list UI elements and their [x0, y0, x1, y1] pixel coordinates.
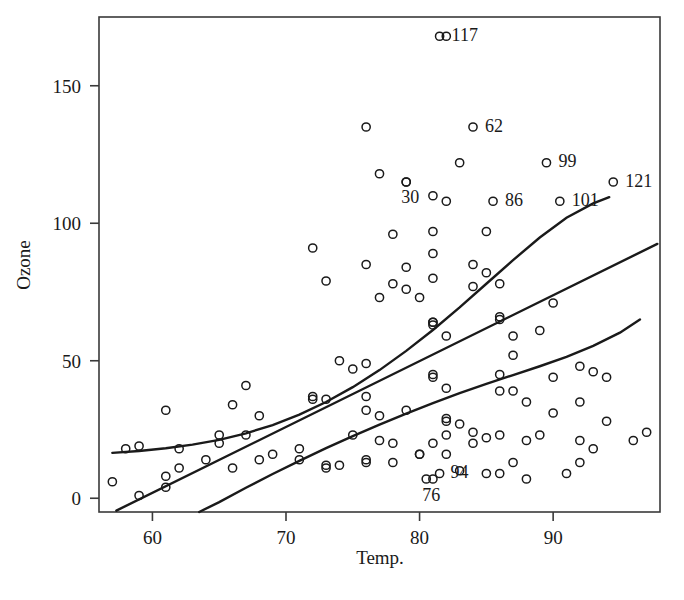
data-point [362, 260, 370, 268]
data-point [469, 428, 477, 436]
point-label: 76 [422, 485, 440, 505]
data-point [415, 450, 423, 458]
data-point [215, 431, 223, 439]
y-axis-ticks: 050100150 [53, 76, 100, 510]
data-point [375, 412, 383, 420]
data-point [442, 450, 450, 458]
data-point [202, 456, 210, 464]
labeled-data-point [489, 197, 497, 205]
data-point [602, 417, 610, 425]
data-point [522, 436, 530, 444]
data-point [576, 436, 584, 444]
data-point [496, 387, 504, 395]
data-point [549, 409, 557, 417]
data-point [429, 439, 437, 447]
data-point [402, 263, 410, 271]
data-point [522, 398, 530, 406]
ozone-temp-scatter-figure: 60708090 050100150 117629912130861019476… [0, 0, 684, 600]
data-point [522, 475, 530, 483]
point-label: 30 [401, 187, 419, 207]
point-label: 62 [485, 116, 503, 136]
data-point [629, 436, 637, 444]
data-point [362, 406, 370, 414]
data-point [442, 332, 450, 340]
y-tick-label: 50 [62, 351, 81, 372]
data-point [469, 260, 477, 268]
data-point [402, 285, 410, 293]
data-point [562, 469, 570, 477]
data-point [135, 442, 143, 450]
x-tick-label: 70 [277, 527, 296, 548]
data-point [175, 464, 183, 472]
data-point [482, 269, 490, 277]
data-point [242, 381, 250, 389]
plot-frame [99, 17, 660, 512]
y-tick-label: 150 [53, 76, 82, 97]
data-point [255, 412, 263, 420]
data-point [442, 197, 450, 205]
data-point [429, 192, 437, 200]
point-label: 94 [451, 462, 469, 482]
data-point [375, 293, 383, 301]
data-point [576, 398, 584, 406]
y-axis-title: Ozone [13, 240, 34, 290]
data-point [496, 370, 504, 378]
labeled-data-point [609, 178, 617, 186]
labeled-data-point [436, 469, 444, 477]
data-point [602, 373, 610, 381]
plot-border [99, 17, 660, 512]
data-point [549, 373, 557, 381]
data-point [469, 439, 477, 447]
data-point [429, 249, 437, 257]
data-point [269, 450, 277, 458]
data-point [375, 436, 383, 444]
point-label: 121 [625, 171, 652, 191]
data-point [375, 170, 383, 178]
data-point [509, 458, 517, 466]
data-point [255, 456, 263, 464]
upper-quantile-curve [112, 197, 609, 453]
x-tick-label: 80 [410, 527, 429, 548]
data-point [496, 431, 504, 439]
data-point [509, 351, 517, 359]
data-point [509, 387, 517, 395]
data-point [362, 123, 370, 131]
data-point [429, 227, 437, 235]
data-point [362, 392, 370, 400]
data-point [456, 159, 464, 167]
point-label: 99 [558, 151, 576, 171]
data-point [389, 439, 397, 447]
x-tick-label: 90 [544, 527, 563, 548]
data-point [442, 384, 450, 392]
median-line [116, 244, 657, 511]
data-point [429, 274, 437, 282]
data-point [496, 280, 504, 288]
data-point [576, 362, 584, 370]
point-label: 117 [452, 25, 478, 45]
data-point [295, 445, 303, 453]
data-point [549, 299, 557, 307]
data-points-group [108, 32, 650, 499]
data-point [389, 458, 397, 466]
data-point [228, 401, 236, 409]
data-point [389, 280, 397, 288]
data-point [108, 478, 116, 486]
data-point [576, 458, 584, 466]
data-point [482, 227, 490, 235]
data-point [162, 406, 170, 414]
x-axis-ticks: 60708090 [143, 512, 563, 548]
point-label: 86 [505, 190, 523, 210]
data-point [496, 469, 504, 477]
data-point [536, 431, 544, 439]
data-point [309, 244, 317, 252]
y-tick-label: 0 [72, 488, 82, 509]
labeled-data-point [556, 197, 564, 205]
labeled-data-point [542, 159, 550, 167]
data-point [482, 469, 490, 477]
data-point [362, 359, 370, 367]
data-point [322, 277, 330, 285]
data-point [389, 230, 397, 238]
data-point [482, 434, 490, 442]
labeled-data-point [402, 178, 410, 186]
data-point [589, 445, 597, 453]
